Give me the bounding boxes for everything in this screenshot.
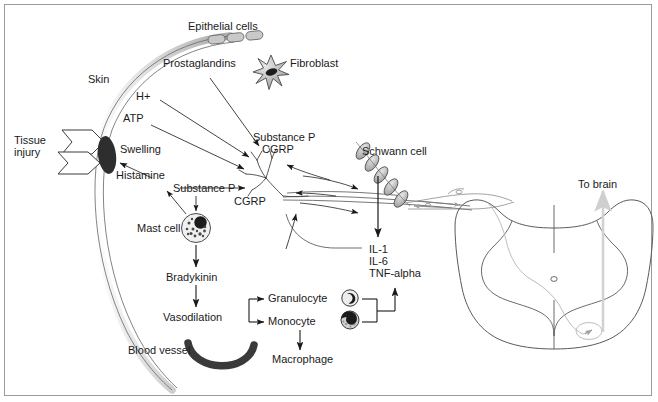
label-cytokine-il6: IL-6: [369, 255, 388, 268]
label-cgrp-upper: CGRP: [262, 143, 294, 156]
label-fibroblast: Fibroblast: [290, 57, 338, 70]
diagram-canvas: Epithelial cells Prostaglandins Fibrobla…: [0, 0, 658, 402]
ascending-tract-graphic: [488, 203, 602, 340]
label-tissue-injury-line2: injury: [14, 146, 40, 159]
fibroblast-graphic: [253, 55, 289, 90]
second-order-neuron-arrow: [585, 330, 592, 334]
label-vasodilation: Vasodilation: [163, 311, 222, 324]
label-atp: ATP: [123, 112, 144, 125]
label-cytokine-il1: IL-1: [369, 243, 388, 256]
label-h-plus: H+: [136, 90, 150, 103]
label-substance-p-upper: Substance P: [253, 131, 315, 144]
cytokine-to-nerve-connector: [286, 214, 362, 248]
label-epithelial-cells: Epithelial cells: [188, 20, 258, 33]
granulocyte-icon-graphic: [342, 290, 358, 306]
orthodromic-signal-arrows: [300, 176, 358, 213]
leukocyte-bracket-graphic: [249, 299, 264, 322]
label-tissue-injury-line1: Tissue: [14, 134, 46, 147]
blood-vessel-graphic: [188, 343, 254, 366]
label-macrophage: Macrophage: [272, 353, 333, 366]
label-histamine: Histamine: [116, 169, 165, 182]
label-schwann-cell: Schwann cell: [362, 145, 427, 158]
monocyte-icon-graphic: [341, 311, 359, 329]
label-skin: Skin: [88, 73, 109, 86]
label-swelling: Swelling: [120, 143, 161, 156]
label-monocyte: Monocyte: [268, 315, 316, 328]
label-mast-cell: Mast cell: [137, 222, 180, 235]
label-cytokine-tnf: TNF-alpha: [369, 267, 421, 280]
mast-cell-graphic: [182, 214, 211, 243]
label-granulocyte: Granulocyte: [268, 292, 327, 305]
label-bradykinin: Bradykinin: [166, 271, 217, 284]
dorsal-root-graphic: [405, 189, 514, 209]
spinal-cord-graphic: [455, 200, 653, 349]
skin-layer-graphic: [95, 36, 234, 390]
label-to-brain: To brain: [578, 178, 617, 191]
label-prostaglandins: Prostaglandins: [163, 57, 236, 70]
dorsal-root-signal-arrows: [414, 201, 460, 208]
label-substance-p-lower: Substance P: [173, 182, 235, 195]
label-cgrp-lower: CGRP: [234, 195, 266, 208]
leukocyte-feedback-bracket: [362, 288, 395, 322]
label-blood-vessel: Blood vessel: [128, 344, 190, 357]
